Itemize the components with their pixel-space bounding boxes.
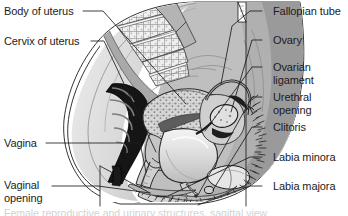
leader-vaginal-opening xyxy=(52,186,150,193)
label-ovarian-ligament: Ovarian ligament xyxy=(273,61,337,86)
leader-urethral-opening xyxy=(198,97,262,195)
leader-body-of-uterus xyxy=(83,11,186,104)
leader-ovary xyxy=(231,40,262,112)
leader-cervix-of-uterus xyxy=(91,41,156,152)
label-vaginal-opening: Vaginal opening xyxy=(4,179,64,204)
label-vagina: Vagina xyxy=(4,137,37,150)
leader-ovarian-ligament xyxy=(205,67,262,131)
label-cervix-of-uterus: Cervix of uterus xyxy=(4,35,79,48)
label-urethral-opening: Urethral opening xyxy=(273,91,337,116)
leader-labia-minora xyxy=(168,157,262,196)
label-body-of-uterus: Body of uterus xyxy=(4,5,74,18)
figure-caption: Female reproductive and urinary structur… xyxy=(4,207,348,216)
leader-vagina xyxy=(46,143,146,172)
leader-labia-majora xyxy=(198,186,262,205)
guide-line-left-diag xyxy=(100,166,150,193)
label-labia-majora: Labia majora xyxy=(273,180,335,193)
label-fallopian-tube: Fallopian tube xyxy=(273,5,341,18)
leader-clitoris xyxy=(213,127,262,190)
anatomy-figure: Body of uterus Cervix of uterus Vagina V… xyxy=(0,0,348,216)
leader-fallopian-tube xyxy=(221,11,262,84)
label-labia-minora: Labia minora xyxy=(273,151,335,164)
guide-line-right-top xyxy=(238,2,246,22)
label-ovary: Ovary xyxy=(273,34,302,47)
label-clitoris: Clitoris xyxy=(273,121,306,134)
